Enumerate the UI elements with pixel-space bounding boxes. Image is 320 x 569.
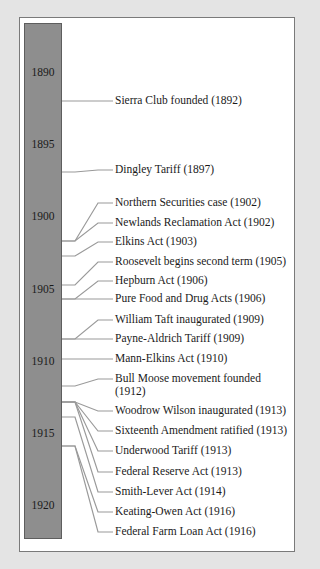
event-label: Underwood Tariff (1913) xyxy=(115,444,231,457)
connector-line xyxy=(62,402,113,451)
event-label: Hepburn Act (1906) xyxy=(115,274,208,287)
event-label: Sierra Club founded (1892) xyxy=(115,94,242,107)
event-label: Pure Food and Drug Acts (1906) xyxy=(115,292,265,305)
connector-line xyxy=(62,402,113,472)
connector-line xyxy=(62,223,113,241)
event-label: Payne-Aldrich Tariff (1909) xyxy=(115,332,244,345)
event-label: Federal Farm Loan Act (1916) xyxy=(115,525,256,538)
year-label: 1910 xyxy=(24,354,62,368)
event-label: Roosevelt begins second term (1905) xyxy=(115,255,286,268)
year-label: 1915 xyxy=(24,426,62,440)
event-label: Elkins Act (1903) xyxy=(115,235,197,248)
event-label: Newlands Reclamation Act (1902) xyxy=(115,216,274,229)
event-label: Smith-Lever Act (1914) xyxy=(115,485,226,498)
connector-line xyxy=(62,281,113,299)
event-label: Federal Reserve Act (1913) xyxy=(115,465,242,478)
connector-line xyxy=(62,402,113,411)
connector-line xyxy=(62,203,113,241)
connector-line xyxy=(62,379,113,386)
connector-line xyxy=(62,170,113,172)
year-label: 1895 xyxy=(24,137,62,151)
event-label: William Taft inaugurated (1909) xyxy=(115,313,264,326)
year-label: 1900 xyxy=(24,209,62,223)
event-label: Dingley Tariff (1897) xyxy=(115,163,214,176)
connector-line xyxy=(62,242,113,256)
year-label: 1905 xyxy=(24,282,62,296)
event-label: Sixteenth Amendment ratified (1913) xyxy=(115,424,287,437)
year-label: 1890 xyxy=(24,65,62,79)
event-label: Bull Moose movement founded (1912) xyxy=(115,372,290,398)
event-label: Mann-Elkins Act (1910) xyxy=(115,352,227,365)
event-label: Northern Securities case (1902) xyxy=(115,196,261,209)
event-label: Keating-Owen Act (1916) xyxy=(115,505,235,518)
year-label: 1920 xyxy=(24,498,62,512)
event-label: Woodrow Wilson inaugurated (1913) xyxy=(115,404,286,417)
connector-line xyxy=(62,320,113,339)
